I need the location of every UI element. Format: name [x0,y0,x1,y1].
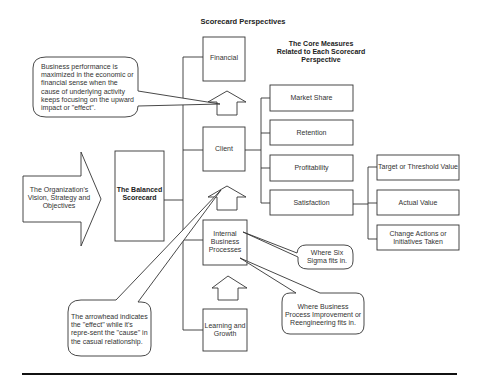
balanced-scorecard-label: The Balanced Scorecard [116,186,163,202]
sub-measure-actual[interactable]: Actual Value [377,199,459,207]
measure-market-share[interactable]: Market Share [270,94,353,102]
callout-bpr: Where Business Process Improvement or Re… [284,303,362,328]
measures-heading: The Core Measures Related to Each Scorec… [276,40,366,65]
perspective-internal-business-processes[interactable]: Internal Business Processes [203,230,247,255]
perspective-learning-and-growth[interactable]: Learning and Growth [203,322,247,338]
up-arrow-3 [212,276,247,300]
diagram-title: Scorecard Perspectives [183,17,303,26]
input-arrow-label: The Organization's Vision, Strategy and … [27,186,91,211]
callout-arrowhead: The arrowhead indicates the "effect" whi… [71,313,151,346]
measure-satisfaction[interactable]: Satisfaction [270,199,353,207]
sub-measure-target[interactable]: Target or Threshold Value [377,163,459,171]
sub-measure-change[interactable]: Change Actions or Initiatives Taken [380,230,456,246]
perspective-financial[interactable]: Financial [203,54,245,62]
callout-business-performance: Business performance is maximized in the… [41,63,137,112]
callout-six-sigma: Where Six Sigma fits in. [305,249,349,265]
perspective-client[interactable]: Client [203,145,245,153]
measure-retention[interactable]: Retention [270,129,353,137]
measure-profitability[interactable]: Profitability [270,164,353,172]
